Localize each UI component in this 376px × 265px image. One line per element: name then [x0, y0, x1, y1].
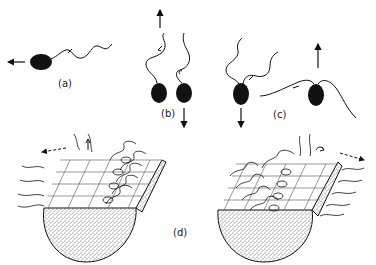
- panel-d-left: [18, 134, 166, 262]
- beat-arrow-icon: [293, 86, 299, 88]
- hemisphere-body: [43, 208, 136, 262]
- panel-d-right: [218, 134, 364, 262]
- panel-label-a: (a): [58, 79, 72, 89]
- panel-label-b: (b): [161, 109, 175, 119]
- hemisphere-edge: [312, 162, 342, 216]
- panel-label-c: (c): [273, 110, 286, 120]
- cell-body: [30, 54, 52, 70]
- cell-body: [308, 84, 324, 106]
- beat-arrow-icon: [158, 46, 162, 51]
- curl-arrow-icon: [316, 147, 324, 151]
- flagellum: [243, 52, 278, 84]
- cilia: [230, 134, 364, 216]
- panel-a: [8, 44, 112, 70]
- flagellum: [260, 80, 314, 96]
- cell-body: [176, 83, 192, 103]
- flagellum: [51, 44, 112, 59]
- beat-arrow-icon: [249, 76, 253, 80]
- hemisphere-body: [218, 210, 313, 262]
- flagellum: [146, 33, 165, 83]
- curl-arrow-icon: [86, 139, 90, 150]
- flagellar-motion-figure: [0, 0, 376, 265]
- hemisphere-edge: [136, 160, 166, 212]
- panel-label-d: (d): [173, 228, 187, 238]
- dashed-arrow-right-icon: [340, 153, 364, 160]
- flagellum: [176, 33, 189, 83]
- cell-body: [233, 83, 249, 105]
- cell-body: [151, 83, 167, 103]
- flagellum: [226, 38, 242, 84]
- flagellum: [318, 81, 356, 118]
- dashed-arrow-left-icon: [42, 148, 66, 152]
- panel-c: [226, 38, 356, 127]
- beat-arrow-icon: [179, 71, 182, 74]
